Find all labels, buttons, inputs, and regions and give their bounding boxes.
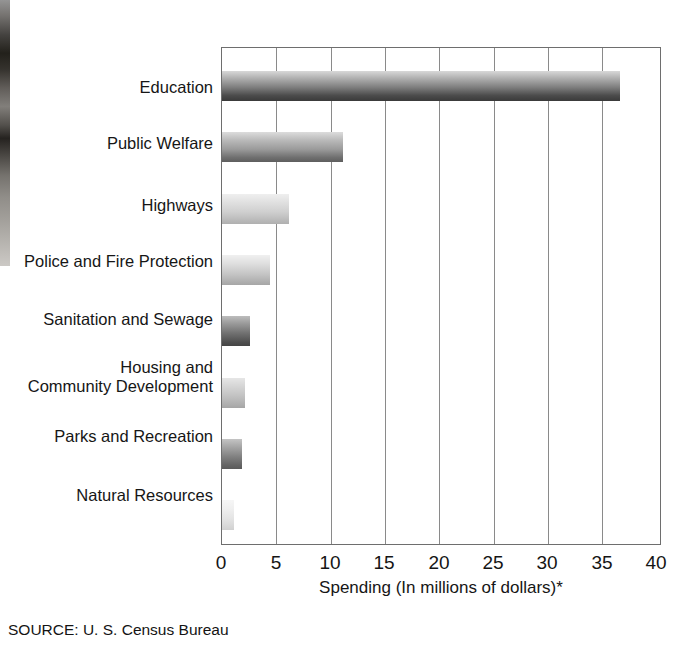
x-tick-label-35: 35 bbox=[582, 552, 622, 574]
x-tick-label-25: 25 bbox=[473, 552, 513, 574]
bar-police-and-fire-protection bbox=[222, 255, 270, 285]
source-note: SOURCE: U. S. Census Bureau bbox=[8, 621, 229, 639]
category-label-natural-resources: Natural Resources bbox=[0, 486, 213, 505]
bar-housing-and-community-development bbox=[222, 378, 245, 408]
category-label-parks-and-recreation: Parks and Recreation bbox=[0, 427, 213, 446]
bar-parks-and-recreation bbox=[222, 439, 242, 469]
bar-public-welfare bbox=[222, 132, 343, 162]
category-label-police-and-fire-protection: Police and Fire Protection bbox=[0, 252, 213, 271]
category-label-sanitation-and-sewage: Sanitation and Sewage bbox=[0, 310, 213, 329]
bar-highways bbox=[222, 194, 289, 224]
bar-education bbox=[222, 71, 620, 101]
gridline-30 bbox=[548, 48, 549, 544]
gridline-15 bbox=[385, 48, 386, 544]
bar-natural-resources bbox=[222, 500, 234, 530]
category-label-highways: Highways bbox=[0, 196, 213, 215]
x-tick-label-30: 30 bbox=[527, 552, 567, 574]
x-tick-label-10: 10 bbox=[310, 552, 350, 574]
plot-area bbox=[221, 47, 661, 545]
x-tick-label-20: 20 bbox=[419, 552, 459, 574]
gridline-35 bbox=[602, 48, 603, 544]
x-axis-title: Spending (In millions of dollars)* bbox=[221, 578, 661, 598]
x-tick-label-5: 5 bbox=[256, 552, 296, 574]
x-tick-label-40: 40 bbox=[636, 552, 676, 574]
x-tick-label-15: 15 bbox=[364, 552, 404, 574]
gridline-5 bbox=[276, 48, 277, 544]
gridline-10 bbox=[331, 48, 332, 544]
value-axis-tick-labels: 0 5 10 15 20 25 30 35 40 bbox=[0, 552, 691, 578]
gridline-20 bbox=[439, 48, 440, 544]
bar-chart-figure: Education Public Welfare Highways Police… bbox=[0, 0, 691, 653]
category-label-education: Education bbox=[0, 78, 213, 97]
x-tick-label-0: 0 bbox=[201, 552, 241, 574]
category-label-housing-and-community-development: Housing and Community Development bbox=[0, 358, 213, 396]
gridline-25 bbox=[494, 48, 495, 544]
bar-sanitation-and-sewage bbox=[222, 316, 250, 346]
category-label-public-welfare: Public Welfare bbox=[0, 134, 213, 153]
